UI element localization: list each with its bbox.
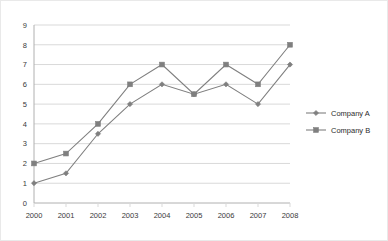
y-axis-tick-labels: 0123456789 (23, 21, 27, 208)
x-tick-label-2007: 2007 (250, 211, 267, 220)
x-tick-label-2002: 2002 (90, 211, 107, 220)
data-point-2003-6 (128, 82, 133, 87)
chart-container: 0123456789 20002001200220032004200520062… (0, 0, 388, 241)
x-tick-label-2005: 2005 (186, 211, 203, 220)
x-tick-label-2001: 2001 (58, 211, 75, 220)
data-point-2004-6 (159, 82, 164, 87)
data-point-2005-5.5 (192, 92, 197, 97)
gridlines (34, 25, 290, 203)
x-tick-label-2003: 2003 (122, 211, 139, 220)
y-tick-label-8: 8 (23, 41, 27, 50)
legend-label: Company A (331, 109, 370, 118)
x-tick-label-2000: 2000 (26, 211, 43, 220)
data-point-2006-6 (223, 82, 228, 87)
legend-item-company-a[interactable]: Company A (306, 109, 370, 118)
y-tick-label-1: 1 (23, 179, 27, 188)
x-axis-tick-labels: 200020012002200320042005200620072008 (26, 211, 299, 220)
data-point-2008-8 (288, 42, 293, 47)
y-tick-label-9: 9 (23, 21, 27, 30)
x-axis-tick-marks (34, 203, 290, 207)
data-point-2004-7 (160, 62, 165, 67)
legend-label: Company B (331, 126, 370, 135)
y-tick-label-4: 4 (23, 120, 27, 129)
data-point-2000-1 (31, 181, 36, 186)
y-tick-label-5: 5 (23, 100, 27, 109)
data-point-2006-7 (224, 62, 229, 67)
chart-legend: Company ACompany B (306, 109, 370, 135)
x-tick-label-2006: 2006 (218, 211, 235, 220)
legend-item-company-b[interactable]: Company B (306, 126, 370, 135)
data-point-2001-2.5 (64, 151, 69, 156)
legend-marker (313, 110, 318, 115)
y-tick-label-7: 7 (23, 60, 27, 69)
y-tick-label-6: 6 (23, 80, 27, 89)
data-point-2000-2 (32, 161, 37, 166)
data-point-2002-4 (96, 121, 101, 126)
data-point-2007-6 (256, 82, 261, 87)
x-tick-label-2008: 2008 (282, 211, 299, 220)
legend-marker (314, 128, 319, 133)
data-series-layer (31, 42, 292, 185)
y-tick-label-2: 2 (23, 159, 27, 168)
line-chart: 0123456789 20002001200220032004200520062… (1, 1, 388, 241)
x-tick-label-2004: 2004 (154, 211, 171, 220)
y-tick-label-0: 0 (23, 199, 27, 208)
y-tick-label-3: 3 (23, 139, 27, 148)
